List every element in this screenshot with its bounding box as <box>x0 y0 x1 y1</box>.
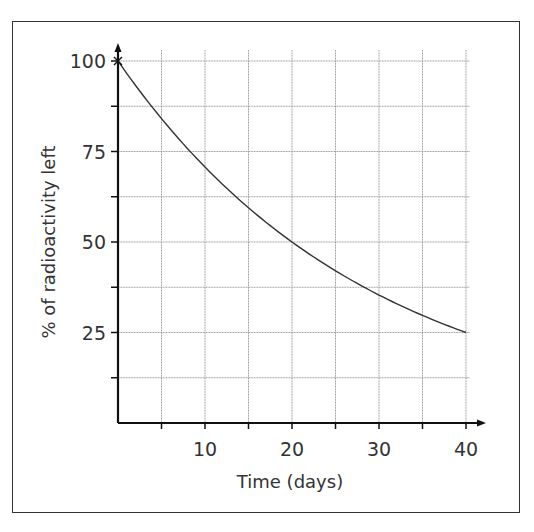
x-axis-title: Time (days) <box>236 471 343 492</box>
axes <box>115 43 487 427</box>
decay-chart: 10203040255075100 Time (days) % of radio… <box>0 0 534 532</box>
x-axis-arrow-icon <box>477 420 486 427</box>
x-tick-label: 10 <box>193 438 217 460</box>
x-tick-label: 30 <box>367 438 391 460</box>
y-tick-label: 50 <box>82 231 106 253</box>
x-tick-label: 20 <box>280 438 304 460</box>
y-axis-arrow-icon <box>115 43 122 52</box>
y-axis-title: % of radioactivity left <box>38 146 59 339</box>
x-tick-label: 40 <box>454 438 478 460</box>
y-tick-label: 75 <box>82 141 106 163</box>
series <box>114 57 466 333</box>
y-tick-label: 25 <box>82 322 106 344</box>
y-tick-label: 100 <box>70 50 106 72</box>
ticks: 10203040255075100 <box>70 50 478 460</box>
grid <box>118 50 470 423</box>
